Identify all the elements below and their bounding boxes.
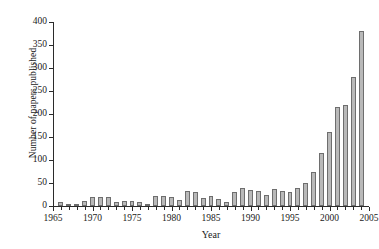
x-tick-mark-major [53, 207, 54, 211]
x-tick-mark-minor [100, 207, 101, 210]
y-tick-mark [49, 45, 53, 46]
y-tick-mark [49, 114, 53, 115]
y-tick-mark [49, 22, 53, 23]
bar [311, 172, 316, 207]
x-tick-mark-minor [156, 207, 157, 210]
x-tick-mark-minor [219, 207, 220, 210]
y-tick-label: 50 [21, 176, 47, 189]
y-tick-mark [49, 68, 53, 69]
x-tick-mark-minor [124, 207, 125, 210]
bar [185, 191, 190, 206]
y-tick: 100 [53, 160, 57, 161]
bar [256, 191, 261, 206]
bar [177, 200, 182, 206]
x-tick-mark-minor [77, 207, 78, 210]
bar [343, 105, 348, 206]
y-tick-mark [49, 183, 53, 184]
bar [359, 31, 364, 206]
x-tick-mark-major [251, 207, 252, 211]
x-tick-label: 1985 [202, 212, 221, 225]
y-tick-mark [49, 91, 53, 92]
y-tick-label: 400 [21, 15, 47, 28]
y-tick-label: 250 [21, 84, 47, 97]
x-tick-mark-major [132, 207, 133, 211]
x-tick-mark-minor [274, 207, 275, 210]
x-tick-mark-minor [164, 207, 165, 210]
x-tick-mark-minor [69, 207, 70, 210]
x-axis-title: Year [53, 228, 369, 241]
x-tick-label: 1975 [123, 212, 142, 225]
bar [145, 204, 150, 206]
bar [232, 192, 237, 206]
y-tick: 50 [53, 183, 57, 184]
bar [319, 153, 324, 206]
x-tick-mark-minor [235, 207, 236, 210]
y-tick: 150 [53, 137, 57, 138]
x-tick-mark-minor [353, 207, 354, 210]
bar [74, 204, 79, 206]
y-tick: 250 [53, 91, 57, 92]
plot-area: 050100150200250300350400 196519701975198… [53, 22, 369, 206]
x-tick-label: 1995 [281, 212, 300, 225]
y-tick-label: 350 [21, 38, 47, 51]
x-tick-mark-major [290, 207, 291, 211]
x-tick-mark-major [211, 207, 212, 211]
y-tick-label: 100 [21, 153, 47, 166]
y-tick-mark [49, 160, 53, 161]
bar [82, 201, 87, 206]
bar [193, 192, 198, 206]
x-tick-mark-major [172, 207, 173, 211]
y-tick: 400 [53, 22, 57, 23]
x-tick-mark-major [330, 207, 331, 211]
x-tick-mark-minor [108, 207, 109, 210]
bar [161, 196, 166, 206]
y-tick-mark [49, 137, 53, 138]
bar [327, 132, 332, 206]
bar [216, 199, 221, 206]
bar [137, 202, 142, 206]
bar [272, 189, 277, 206]
bar [114, 202, 119, 206]
bar [264, 195, 269, 206]
bar [295, 188, 300, 206]
x-tick-mark-minor [140, 207, 141, 210]
bar [240, 188, 245, 206]
bar [248, 190, 253, 206]
bar [90, 197, 95, 206]
bar [288, 192, 293, 206]
bar [98, 197, 103, 206]
bar [303, 183, 308, 206]
x-tick-mark-minor [306, 207, 307, 210]
x-tick-mark-minor [258, 207, 259, 210]
x-tick-label: 1990 [241, 212, 260, 225]
bar [280, 191, 285, 206]
x-tick-mark-minor [148, 207, 149, 210]
x-tick-label: 2005 [360, 212, 379, 225]
x-tick-mark-minor [227, 207, 228, 210]
x-tick-label: 1970 [83, 212, 102, 225]
x-tick-mark-minor [61, 207, 62, 210]
bar [153, 196, 158, 206]
y-tick-label: 0 [21, 199, 47, 212]
bar [66, 204, 71, 206]
x-tick-mark-minor [243, 207, 244, 210]
x-tick-mark-minor [266, 207, 267, 210]
x-tick-mark-minor [361, 207, 362, 210]
x-tick-mark-minor [298, 207, 299, 210]
x-tick-mark-minor [322, 207, 323, 210]
x-tick-mark-minor [282, 207, 283, 210]
bar [209, 196, 214, 206]
bar [201, 198, 206, 206]
x-tick-mark-minor [203, 207, 204, 210]
bar [58, 202, 63, 206]
x-tick-mark-minor [187, 207, 188, 210]
bar [122, 201, 127, 206]
x-tick-mark-minor [345, 207, 346, 210]
y-tick-label: 150 [21, 130, 47, 143]
y-tick: 200 [53, 114, 57, 115]
x-tick-mark-minor [85, 207, 86, 210]
x-tick-mark-major [93, 207, 94, 211]
x-tick-mark-minor [314, 207, 315, 210]
x-tick-label: 2000 [320, 212, 339, 225]
chart-figure: Number of papers published 0501001502002… [0, 0, 379, 249]
